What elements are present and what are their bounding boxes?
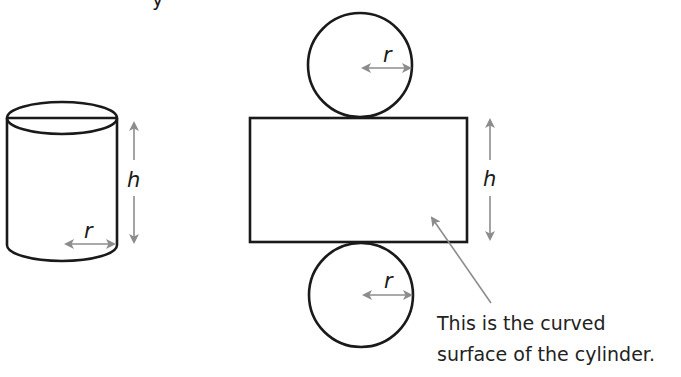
cylinder-3d: r h [7,102,140,261]
pointer-arrow [432,218,491,303]
cylinder-net-diagram: y r h r h r This is the curved surface o… [0,0,681,377]
cylinder-bottom-arc [7,245,117,261]
curved-surface-annotation: This is the curved surface of the cylind… [432,218,655,365]
cylinder-radius-label: r [84,219,94,243]
curved-surface-rectangle [250,118,467,242]
net-top-circle: r [308,13,412,117]
cylinder-height-label: h [127,168,140,192]
net-rectangle: h [250,118,496,242]
annotation-line-2: surface of the cylinder. [437,343,655,365]
annotation-line-1: This is the curved [436,312,606,334]
net-bottom-circle: r [309,243,413,347]
bottom-circle-radius-label: r [384,269,394,293]
top-circle-radius-label: r [383,43,393,67]
rectangle-height-label: h [483,167,496,191]
top-circle-outline [308,13,412,117]
title-fragment: y [152,0,163,10]
